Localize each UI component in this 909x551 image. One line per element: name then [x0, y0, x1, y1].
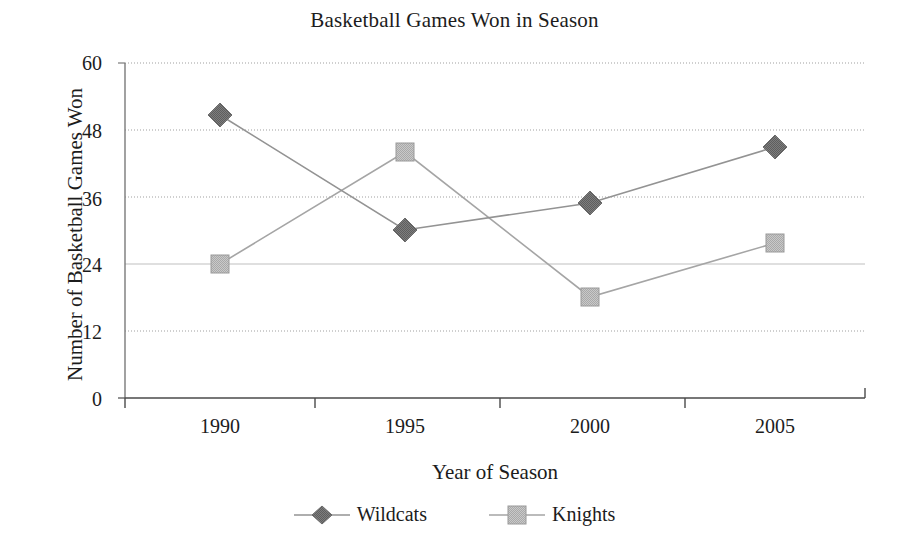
chart-legend: Wildcats Knights — [0, 503, 909, 526]
data-point-wildcats-2005 — [763, 135, 787, 159]
series-knights — [211, 143, 784, 306]
series-knights-line — [220, 152, 775, 297]
legend-item-knights[interactable]: Knights — [489, 503, 615, 526]
chart-figure: Basketball Games Won in Season Number of… — [0, 0, 909, 551]
series-wildcats — [208, 103, 787, 242]
data-point-wildcats-1995 — [393, 218, 417, 242]
data-point-knights-1990 — [211, 255, 229, 273]
legend-marker-wildcats-icon — [294, 504, 350, 526]
gridlines — [125, 63, 865, 331]
data-point-wildcats-2000 — [578, 191, 602, 215]
legend-item-wildcats[interactable]: Wildcats — [294, 503, 427, 526]
data-point-wildcats-1990 — [208, 103, 232, 127]
legend-label-knights: Knights — [552, 503, 615, 526]
legend-marker-knights-icon — [489, 504, 545, 526]
legend-label-wildcats: Wildcats — [357, 503, 427, 526]
plot-area — [0, 0, 909, 551]
data-point-knights-2000 — [581, 288, 599, 306]
data-point-knights-1995 — [396, 143, 414, 161]
data-point-knights-2005 — [766, 234, 784, 252]
